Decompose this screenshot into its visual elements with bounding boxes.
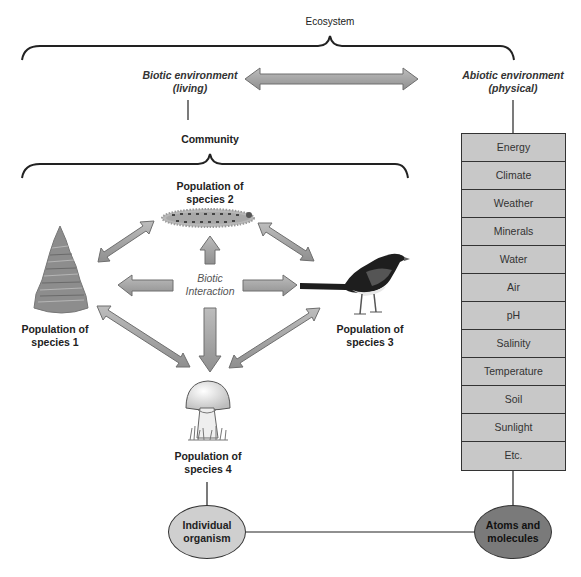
arrow-species1-species4: [97, 306, 190, 367]
abiotic-factors-list: Energy Climate Weather Minerals Water Ai…: [461, 133, 566, 471]
abiotic-factor-salinity: Salinity: [462, 330, 565, 358]
abiotic-factor-weather: Weather: [462, 190, 565, 218]
mushroom-icon: [186, 381, 230, 440]
biotic-interaction-label: Biotic Interaction: [178, 272, 242, 298]
abiotic-factor-sunlight: Sunlight: [462, 414, 565, 442]
biotic-interaction-line1: Biotic: [178, 272, 242, 285]
population-line1: Population of: [158, 450, 258, 463]
arrow-species1-species2: [98, 221, 154, 262]
bird-icon: [300, 254, 410, 314]
abiotic-factor-ph: pH: [462, 302, 565, 330]
biotic-abiotic-double-arrow: [245, 68, 418, 90]
population-line2: species 1: [5, 336, 105, 349]
population-line2: species 3: [320, 336, 420, 349]
population-line1: Population of: [160, 180, 260, 193]
arrow-species2-species3: [258, 223, 314, 261]
arrow-to-species4: [199, 308, 221, 372]
abiotic-line1: Abiotic environment: [453, 69, 573, 82]
atoms-line1: Atoms and: [486, 519, 540, 532]
individual-organism-oval: Individual organism: [168, 505, 246, 559]
population-line1: Population of: [5, 323, 105, 336]
ecosystem-brace: [22, 36, 514, 60]
arrow-species3-species4: [229, 308, 320, 368]
biotic-line1: Biotic environment: [130, 69, 250, 82]
population-species-2-label: Population of species 2: [160, 180, 260, 206]
abiotic-factor-soil: Soil: [462, 386, 565, 414]
abiotic-line2: (physical): [453, 82, 573, 95]
ecosystem-title: Ecosystem: [300, 15, 360, 28]
population-line2: species 2: [160, 193, 260, 206]
abiotic-factor-energy: Energy: [462, 134, 565, 162]
population-line1: Population of: [320, 323, 420, 336]
population-species-3-label: Population of species 3: [320, 323, 420, 349]
abiotic-factor-air: Air: [462, 274, 565, 302]
arrow-to-species2: [200, 236, 220, 264]
abiotic-factor-etc: Etc.: [462, 442, 565, 470]
population-species-1-label: Population of species 1: [5, 323, 105, 349]
arrow-to-species1: [118, 275, 173, 296]
community-brace: [22, 154, 408, 178]
biotic-environment-label: Biotic environment (living): [130, 69, 250, 95]
abiotic-factor-temperature: Temperature: [462, 358, 565, 386]
atoms-line2: molecules: [486, 532, 540, 545]
abiotic-factor-climate: Climate: [462, 162, 565, 190]
abiotic-environment-label: Abiotic environment (physical): [453, 69, 573, 95]
individual-line1: Individual: [182, 519, 231, 532]
tree-icon: [34, 226, 88, 313]
population-species-4-label: Population of species 4: [158, 450, 258, 476]
caterpillar-icon: [162, 209, 254, 227]
individual-line2: organism: [182, 532, 231, 545]
population-line2: species 4: [158, 463, 258, 476]
atoms-molecules-oval: Atoms and molecules: [474, 505, 552, 559]
abiotic-factor-minerals: Minerals: [462, 218, 565, 246]
abiotic-factor-water: Water: [462, 246, 565, 274]
biotic-line2: (living): [130, 82, 250, 95]
arrow-to-species3: [243, 275, 297, 296]
biotic-interaction-line2: Interaction: [178, 285, 242, 298]
community-title: Community: [175, 133, 245, 146]
